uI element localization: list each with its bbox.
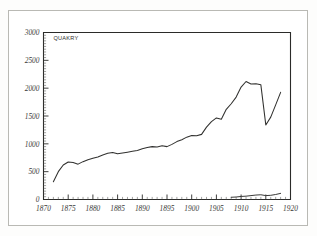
x-tick-label: 1920 [283,204,298,213]
line-chart: 1870187518801885189018951900190519101915… [0,0,317,236]
y-tick-label: 0 [36,195,40,204]
ticks-group [44,33,291,200]
plot-frame [44,33,291,200]
y-tick-label: 500 [28,167,39,176]
figure-container: 1870187518801885189018951900190519101915… [0,0,317,236]
x-tick-label: 1870 [36,204,51,213]
y-tick-label: 2500 [25,56,40,65]
data-line-secondary [231,193,280,197]
x-tick-label: 1880 [86,204,101,213]
x-tick-label: 1905 [209,204,224,213]
data-series-group [53,81,280,197]
chart-annotations: QUAKRY [53,35,78,41]
y-tick-label: 2000 [25,84,40,93]
series-label-annotation: QUAKRY [53,35,78,41]
y-axis-tick-labels: 050010001500200025003000 [24,28,40,204]
y-tick-label: 1500 [25,112,40,121]
data-line-primary [53,81,280,181]
x-tick-label: 1885 [110,204,125,213]
x-tick-label: 1895 [160,204,175,213]
x-tick-label: 1900 [184,204,199,213]
y-tick-label: 3000 [24,28,40,37]
x-tick-label: 1890 [135,204,150,213]
x-tick-label: 1875 [61,204,76,213]
y-tick-label: 1000 [25,140,40,149]
x-tick-label: 1915 [258,204,273,213]
axes-group [44,33,291,200]
x-tick-label: 1910 [234,204,249,213]
x-axis-tick-labels: 1870187518801885189018951900190519101915… [36,204,298,213]
